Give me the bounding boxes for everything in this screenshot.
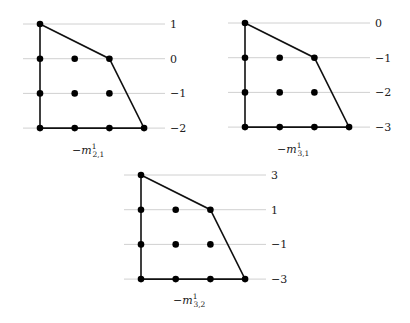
- row-label: −1: [375, 52, 391, 65]
- lattice-point: [37, 21, 44, 28]
- lattice-point: [346, 124, 353, 131]
- lattice-point: [311, 124, 318, 131]
- row-label: 0: [375, 17, 382, 30]
- polygon-m32: 31−1−3−m13,2: [124, 169, 287, 309]
- polygon-caption: −m12,1: [72, 142, 104, 159]
- row-label: −1: [170, 87, 186, 100]
- lattice-point: [242, 124, 249, 131]
- lattice-point: [71, 90, 78, 97]
- lattice-point: [138, 276, 145, 283]
- lattice-point: [207, 206, 214, 213]
- row-label: −2: [170, 122, 186, 135]
- row-label: −2: [375, 86, 391, 99]
- polygon-caption: −m13,1: [277, 141, 309, 158]
- lattice-point: [141, 125, 148, 132]
- lattice-point: [242, 54, 249, 61]
- lattice-point: [242, 276, 249, 283]
- row-label: 0: [170, 53, 177, 66]
- lattice-point: [71, 125, 78, 132]
- row-label: −3: [375, 121, 391, 134]
- lattice-point: [207, 241, 214, 248]
- polygon-m21: 10−1−2−m12,1: [23, 18, 186, 159]
- row-label: 1: [271, 204, 278, 217]
- lattice-point: [276, 124, 283, 131]
- lattice-point: [311, 89, 318, 96]
- lattice-point: [172, 206, 179, 213]
- row-label: −1: [271, 238, 287, 251]
- lattice-point: [138, 206, 145, 213]
- lattice-point: [242, 20, 249, 27]
- lattice-point: [106, 90, 113, 97]
- polygon-outline: [245, 23, 349, 127]
- polygon-m31: 0−1−2−3−m13,1: [228, 17, 391, 158]
- lattice-point: [172, 241, 179, 248]
- lattice-point: [311, 54, 318, 61]
- lattice-point: [37, 125, 44, 132]
- row-label: 1: [170, 18, 177, 31]
- lattice-point: [71, 55, 78, 62]
- diagram-canvas: 10−1−2−m12,10−1−2−3−m13,131−1−3−m13,2: [0, 0, 410, 323]
- lattice-point: [207, 276, 214, 283]
- lattice-point: [106, 125, 113, 132]
- polygon-outline: [141, 175, 245, 279]
- polygon-caption: −m13,2: [173, 292, 206, 309]
- polygon-outline: [40, 24, 144, 128]
- lattice-point: [37, 90, 44, 97]
- row-label: 3: [271, 169, 278, 182]
- lattice-point: [276, 54, 283, 61]
- lattice-point: [106, 55, 113, 62]
- lattice-point: [276, 89, 283, 96]
- lattice-point: [138, 241, 145, 248]
- row-label: −3: [271, 273, 287, 286]
- lattice-point: [242, 89, 249, 96]
- lattice-point: [37, 55, 44, 62]
- lattice-point: [138, 172, 145, 179]
- lattice-point: [172, 276, 179, 283]
